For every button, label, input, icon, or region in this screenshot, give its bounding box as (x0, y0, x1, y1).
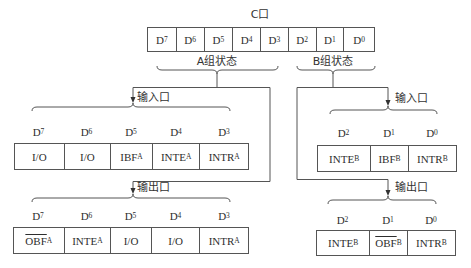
c-port-bit-7: D7 (148, 28, 176, 51)
group-a-input-label: 输入口 (137, 91, 170, 105)
c-port-bit-6: D6 (176, 28, 204, 51)
c-port-title: C口 (240, 8, 280, 22)
bit-label: D0 (407, 213, 455, 227)
status-cell: INTEB (318, 146, 370, 171)
bit-label: D5 (110, 125, 152, 139)
status-cell: OBFA (14, 228, 64, 253)
c-port-bit-5: D5 (204, 28, 233, 51)
bit-label: D2 (316, 213, 369, 227)
group-b-input-table: INTEB IBFB INTRB (317, 145, 457, 172)
port-c-status-diagram: C口 D7 D6 D5 D4 D3 D2 D1 D0 A组状态 B组状态 输入口… (0, 0, 471, 268)
arrow-down-icon (131, 188, 136, 194)
bit-label: D7 (13, 209, 63, 223)
status-cell: INTRA (199, 144, 248, 169)
c-port-bit-3: D3 (260, 28, 288, 51)
status-cell: I/O (64, 144, 111, 169)
status-cell: I/O (110, 228, 151, 253)
group-a-output-table: OBFA INTEA I/O I/O INTRA (13, 227, 249, 254)
group-b-input-label: 输入口 (395, 92, 428, 106)
arrow-down-icon (386, 100, 391, 106)
status-cell: IBFB (370, 146, 407, 171)
group-a-output-bit-labels: D7 D6 D5 D4 D3 (13, 209, 248, 223)
bit-label: D6 (63, 125, 110, 139)
group-b-output-bit-labels: D2 D1 D0 (316, 213, 455, 227)
bit-label: D3 (200, 125, 248, 139)
c-port-bit-0: D0 (343, 28, 374, 51)
status-cell: INTRA (199, 228, 248, 253)
status-cell: INTEB (317, 231, 369, 255)
status-cell: INTRB (408, 146, 456, 171)
group-a-input-brace (32, 103, 230, 111)
bit-label: D4 (151, 209, 200, 223)
status-cell: INTEA (64, 228, 111, 253)
status-cell: INTRB (407, 231, 455, 255)
arrow-down-icon (386, 190, 391, 196)
bit-label: D0 (408, 126, 456, 140)
group-b-output-brace (328, 196, 436, 204)
bit-label: D1 (370, 126, 408, 140)
c-port-bit-1: D1 (316, 28, 344, 51)
group-a-output-brace (32, 194, 230, 202)
group-b-input-brace (330, 106, 437, 114)
group-b-output-table: INTEB OBFB INTRB (316, 230, 456, 256)
bit-label: D4 (152, 125, 200, 139)
status-cell: INTEA (152, 144, 200, 169)
group-a-label: A组状态 (182, 55, 252, 69)
group-a-input-table: I/O I/O IBFA INTEA INTRA (14, 143, 249, 170)
status-cell: I/O (151, 228, 200, 253)
status-cell: I/O (15, 144, 64, 169)
bit-label: D6 (63, 209, 110, 223)
group-a-input-bit-labels: D7 D6 D5 D4 D3 (14, 125, 248, 139)
group-b-label: B组状态 (298, 55, 368, 69)
c-port-bit-4: D4 (232, 28, 260, 51)
c-port-table: D7 D6 D5 D4 D3 D2 D1 D0 (147, 27, 375, 52)
group-b-input-bit-labels: D2 D1 D0 (317, 126, 456, 140)
bit-label: D3 (200, 209, 248, 223)
bit-label: D5 (110, 209, 151, 223)
bit-label: D2 (317, 126, 370, 140)
bit-label: D1 (369, 213, 407, 227)
group-b-output-label: 输出口 (395, 181, 428, 195)
bit-label: D7 (14, 125, 63, 139)
status-cell: OBFB (369, 231, 406, 255)
group-a-output-label: 输出口 (137, 181, 170, 195)
c-port-bit-2: D2 (288, 28, 316, 51)
arrow-down-icon (131, 97, 136, 103)
status-cell: IBFA (110, 144, 152, 169)
